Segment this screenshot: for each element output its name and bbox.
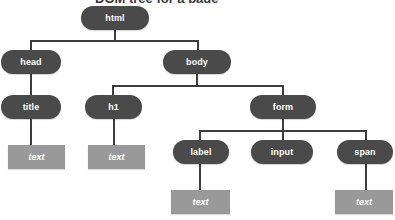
node-label-label: label <box>190 147 211 156</box>
node-title[interactable]: title <box>1 95 61 119</box>
node-span[interactable]: span <box>337 140 393 164</box>
node-label[interactable]: label <box>173 140 229 164</box>
node-text-label-label: text <box>192 197 208 206</box>
node-head-label: head <box>20 57 41 66</box>
node-text-span[interactable]: text <box>335 190 393 214</box>
node-text-label[interactable]: text <box>171 190 230 214</box>
node-h1[interactable]: h1 <box>85 95 142 119</box>
node-html-label: html <box>105 13 124 22</box>
node-text-h1[interactable]: text <box>88 145 145 169</box>
node-span-label: span <box>354 147 375 156</box>
node-html[interactable]: html <box>81 6 149 30</box>
node-text-title-label: text <box>28 152 44 161</box>
node-title-label: title <box>23 102 40 111</box>
node-h1-label: h1 <box>108 102 119 111</box>
cropped-title-fragment: DOM tree for a page <box>0 0 395 3</box>
node-text-title[interactable]: text <box>8 145 65 169</box>
node-text-h1-label: text <box>108 152 124 161</box>
node-body-label: body <box>186 57 208 66</box>
node-form-label: form <box>273 102 293 111</box>
dom-tree-diagram: DOM tree for a page <box>0 0 395 220</box>
node-input-label: input <box>271 147 294 156</box>
node-text-span-label: text <box>356 197 372 206</box>
cropped-title-text: DOM tree for a page <box>95 0 219 3</box>
node-input[interactable]: input <box>251 140 313 164</box>
node-body[interactable]: body <box>163 50 231 74</box>
node-form[interactable]: form <box>250 95 316 119</box>
node-head[interactable]: head <box>1 50 61 74</box>
